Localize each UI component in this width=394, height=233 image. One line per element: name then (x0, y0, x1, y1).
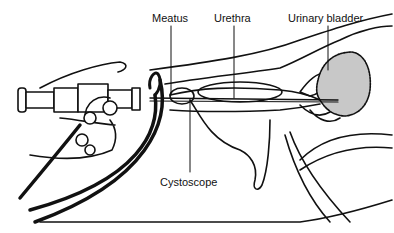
scope-body (54, 88, 78, 112)
label-urinary-bladder: Urinary bladder (288, 12, 363, 24)
tube-hook (150, 73, 160, 95)
label-cystoscope: Cystoscope (160, 176, 217, 188)
label-meatus: Meatus (152, 12, 188, 24)
cystoscopy-diagram (0, 0, 394, 233)
cystoscope-shaft (150, 98, 338, 100)
scope-sheath (132, 88, 140, 110)
eyepiece (18, 88, 26, 112)
label-urethra: Urethra (214, 12, 251, 24)
finger-2 (76, 134, 88, 146)
finger-3 (85, 145, 95, 155)
finger (84, 112, 96, 124)
valve-knob (103, 101, 117, 115)
leg-curve-2 (285, 135, 330, 222)
scope-barrel (26, 92, 54, 108)
urinary-bladder (317, 52, 371, 116)
abdomen-curve-2 (300, 147, 392, 170)
tube-1 (20, 125, 80, 198)
cystoscope-shaft-2 (150, 101, 338, 102)
